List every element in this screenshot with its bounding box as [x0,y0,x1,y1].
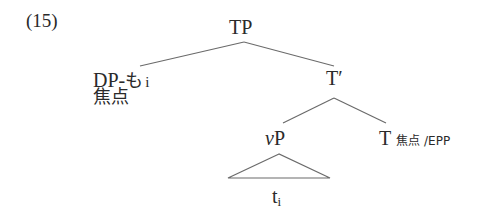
t-features: 焦点 /EPP [396,134,450,148]
edge-tbar-to-t [334,98,386,123]
vp-v: v [265,127,274,149]
t-label: T [379,127,391,149]
edge-tp-to-dp [140,42,244,66]
vp-p: P [274,127,285,149]
edge-tbar-to-vp [283,98,334,123]
node-t-head: T焦点 /EPP [379,128,450,148]
node-vp: vP [265,128,285,148]
node-tbar: T′ [326,68,343,88]
trace-index: i [278,194,282,209]
vp-triangle [228,154,330,178]
node-tp: TP [229,17,252,37]
trace: ti [272,186,281,206]
dp-index: i [145,74,149,90]
trace-t: t [272,185,278,207]
dp-focus-feature: 焦点 [93,88,129,106]
edge-tp-to-tbar [244,42,334,66]
